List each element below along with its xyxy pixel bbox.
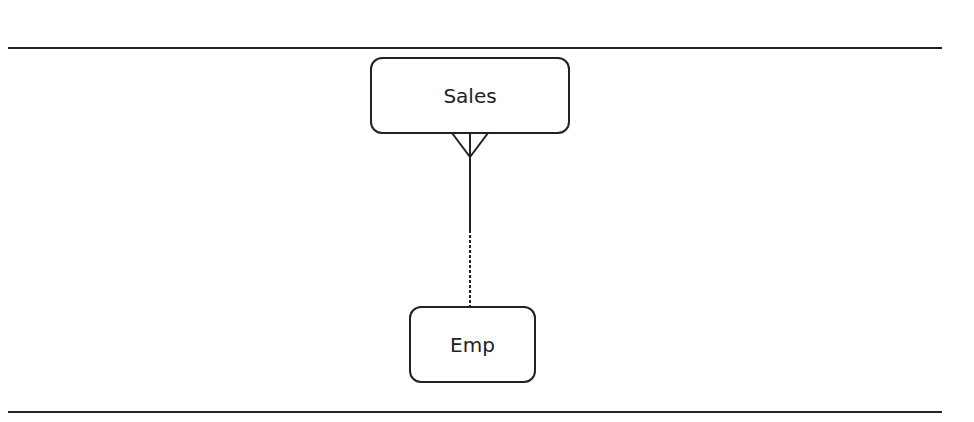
entity-label: Sales (443, 84, 496, 108)
entity-label: Emp (450, 333, 495, 357)
entity-sales[interactable]: Sales (370, 57, 570, 134)
entity-emp[interactable]: Emp (409, 306, 536, 383)
